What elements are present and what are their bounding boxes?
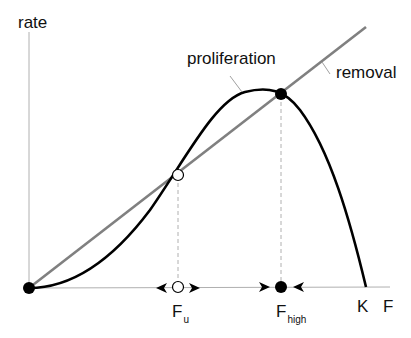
- proliferation-label: proliferation: [187, 49, 276, 69]
- fu-axis-unstable-point: [173, 282, 184, 293]
- origin-stable-point: [23, 282, 35, 294]
- fu-unstable-point: [173, 170, 184, 181]
- x-axis: [29, 287, 390, 288]
- x-axis-label: F: [383, 297, 393, 317]
- fu-label-sub: u: [183, 314, 189, 325]
- k-label: K: [357, 297, 368, 317]
- proliferation-curve: [29, 89, 366, 288]
- fhigh-label-sub: high: [287, 314, 306, 325]
- fu-label: Fu: [172, 302, 189, 322]
- proliferation-leader: [230, 76, 242, 92]
- fhigh-label: Fhigh: [276, 302, 306, 322]
- y-axis-label: rate: [18, 13, 47, 33]
- removal-leader: [322, 62, 330, 74]
- fu-label-main: F: [172, 302, 182, 321]
- removal-label: removal: [336, 63, 396, 83]
- fhigh-axis-stable-point: [275, 281, 287, 293]
- fhigh-stable-point: [275, 88, 287, 100]
- fhigh-label-main: F: [276, 302, 286, 321]
